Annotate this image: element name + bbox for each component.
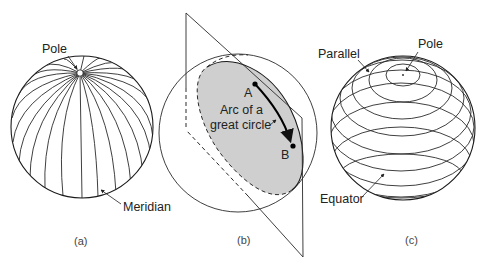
pole-leader-a [68,56,77,69]
meridian-label: Meridian [123,200,171,214]
caption-a: (a) [74,235,87,247]
sphere-geometry-figure: Pole Meridian (a) [0,0,484,264]
pole-point-a [77,70,83,76]
point-a [252,81,257,86]
point-a-label: A [244,86,253,100]
panel-b: A B Arc of a great circle (b) [159,13,317,257]
sphere-outline-c [331,56,475,200]
panel-c: Parallel Pole Equator (c) [318,37,475,246]
point-b-label: B [281,148,289,162]
pole-label-c: Pole [418,37,443,51]
arc-label-line2: great circle [210,118,271,132]
pole-label-a: Pole [42,42,67,56]
pole-point-c [402,74,404,76]
caption-c: (c) [405,234,418,246]
arc-label-line1: Arc of a [220,103,263,117]
panel-a: Pole Meridian (a) [11,42,171,247]
equator-label: Equator [320,192,364,206]
caption-b: (b) [237,234,250,246]
meridian-lines [12,56,153,198]
point-b [290,143,295,148]
parallel-label: Parallel [318,47,360,61]
